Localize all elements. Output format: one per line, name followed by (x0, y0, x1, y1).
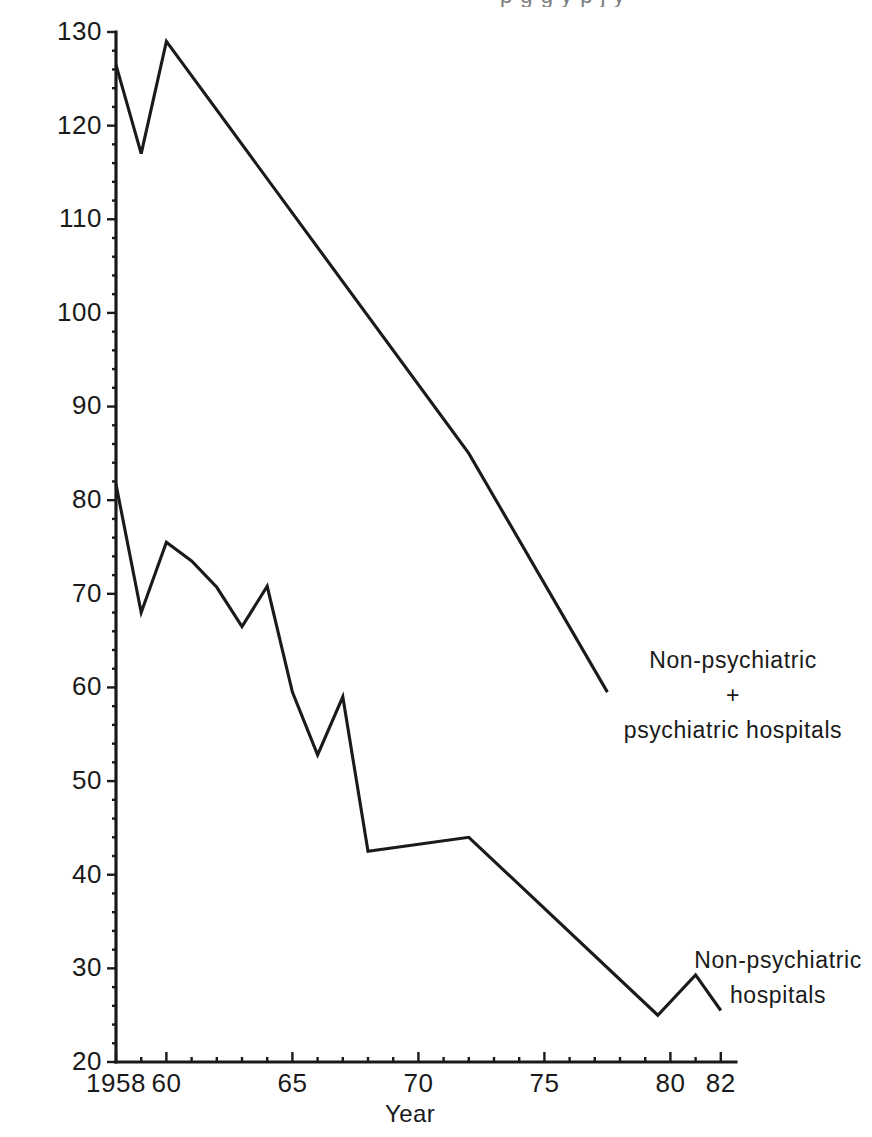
y-axis-tick-label: 30 (72, 952, 102, 982)
y-axis-tick-label: 70 (72, 578, 102, 608)
lower-series-label: Non-psychiatrichospitals (694, 947, 862, 1008)
series-line-combined-hospitals (116, 41, 607, 692)
y-axis-tick-label: 40 (72, 859, 102, 889)
y-axis-tick-label: 60 (72, 671, 102, 701)
x-axis-title: Year (385, 1100, 435, 1127)
x-axis-tick-label: 82 (706, 1068, 736, 1098)
x-axis: 1958606570758082 (86, 1052, 736, 1098)
upper-series-label: Non-psychiatric+psychiatric hospitals (624, 647, 842, 743)
y-axis-tick-label: 50 (72, 765, 102, 795)
x-axis-tick-label: 60 (151, 1068, 181, 1098)
y-axis-tick-label: 120 (57, 110, 102, 140)
y-axis-tick-label: 100 (57, 297, 102, 327)
series-line-nonpsychiatric-hospitals (116, 484, 721, 1015)
x-axis-tick-label: 80 (655, 1068, 685, 1098)
data-series-group (116, 41, 721, 1015)
annotation-line: Non-psychiatric (694, 947, 862, 973)
y-axis-tick-label: 80 (72, 484, 102, 514)
annotation-line: psychiatric hospitals (624, 717, 842, 743)
y-axis-tick-label: 130 (57, 16, 102, 46)
x-axis-tick-label: 65 (277, 1068, 307, 1098)
annotation-line: hospitals (730, 982, 826, 1008)
chart-container: p g g y p j y 20304050607080901001101201… (0, 0, 872, 1137)
x-axis-tick-label: 70 (403, 1068, 433, 1098)
x-axis-tick-label: 1958 (86, 1068, 146, 1098)
annotation-line: Non-psychiatric (649, 647, 817, 673)
y-axis-tick-label: 110 (59, 203, 102, 233)
y-axis: 2030405060708090100110120130 (57, 16, 116, 1076)
x-axis-tick-label: 75 (529, 1068, 559, 1098)
annotation-line: + (726, 682, 740, 708)
line-chart: 2030405060708090100110120130 19586065707… (0, 0, 872, 1137)
y-axis-tick-label: 90 (72, 390, 102, 420)
annotations-group: Non-psychiatric+psychiatric hospitalsNon… (624, 647, 862, 1008)
